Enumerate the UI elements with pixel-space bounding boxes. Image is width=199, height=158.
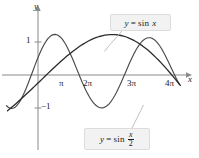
callout-sin-half-x: y = sin x 2 (84, 128, 150, 150)
x-tick-label-4pi: 4π (165, 79, 174, 88)
equation-lhs: y (125, 18, 129, 28)
equation-sin-half-x: y = sin x 2 (100, 131, 134, 148)
equals-sign: = (131, 18, 136, 28)
y-tick-label-neg1: −1 (41, 102, 51, 111)
x-tick-label-pi: π (59, 79, 64, 88)
curve-sin-half-x (8, 35, 181, 111)
x-tick-label-3pi: 3π (127, 79, 136, 88)
equals-sign: = (106, 134, 111, 144)
fraction-numerator: x (128, 131, 134, 139)
y-tick-label-1: 1 (26, 36, 31, 45)
sine-curves-figure: y x 1 −1 π 2π 3π 4π y = sin x y = sin x … (0, 0, 199, 158)
x-axis-label: x (188, 74, 192, 84)
equation-lhs: y (100, 134, 104, 144)
fraction-x-over-2: x 2 (128, 131, 134, 148)
x-tick-label-2pi: 2π (83, 79, 92, 88)
y-axis-label: y (34, 1, 38, 11)
sine-function-name: sin (138, 18, 149, 28)
sine-argument: x (152, 18, 156, 28)
leader-line-sin-half-x (132, 105, 144, 128)
callout-sin-x: y = sin x (110, 14, 171, 31)
fraction-denominator: 2 (128, 139, 134, 148)
sine-function-name: sin (114, 134, 125, 144)
curve-sin-x (7, 34, 180, 108)
equation-sin-x: y = sin x (125, 18, 157, 28)
